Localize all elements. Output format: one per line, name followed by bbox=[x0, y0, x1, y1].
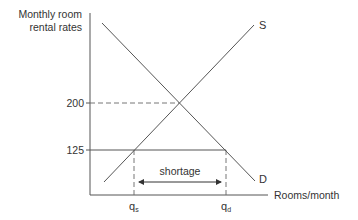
qd-label-sub: d bbox=[227, 206, 231, 213]
chart-canvas: Monthly room rental rates 200 125 S D sh… bbox=[0, 0, 358, 220]
qs-label: qs bbox=[129, 200, 139, 213]
shortage-label: shortage bbox=[160, 165, 201, 177]
supply-curve-label: S bbox=[259, 19, 266, 31]
qs-label-sub: s bbox=[135, 206, 139, 213]
y-tick-label-125: 125 bbox=[66, 144, 84, 156]
qd-label: qd bbox=[221, 200, 231, 213]
x-axis-label: Rooms/month bbox=[274, 189, 340, 201]
y-tick-label-200: 200 bbox=[66, 97, 84, 109]
demand-curve-label: D bbox=[259, 173, 267, 185]
y-axis-label-line1: Monthly room bbox=[18, 8, 82, 20]
supply-demand-chart: Monthly room rental rates 200 125 S D sh… bbox=[0, 0, 358, 220]
y-axis-label-line2: rental rates bbox=[29, 21, 82, 33]
demand-curve bbox=[102, 23, 255, 181]
